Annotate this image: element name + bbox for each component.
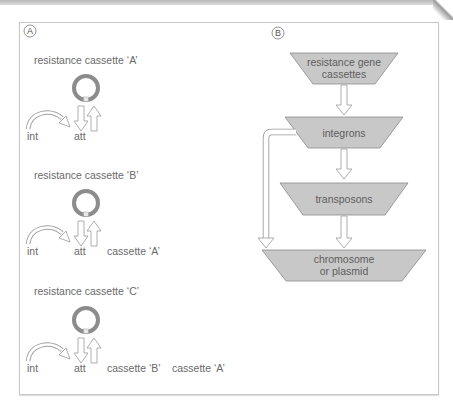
integrase-curved-arrow-icon	[28, 228, 70, 244]
step-title: resistance cassette ‘C’	[34, 285, 139, 297]
int-label: int	[27, 362, 38, 374]
svg-text:integrons: integrons	[322, 127, 365, 139]
att-label: att	[74, 245, 86, 257]
integrase-curved-arrow-icon	[28, 113, 70, 129]
panel-b-badge-label: B	[275, 28, 281, 38]
step-2: resistance cassette ‘B’ int att cassette…	[25, 169, 222, 258]
figure-canvas: A resistance cassette ‘A’ int att	[0, 0, 453, 410]
flow-arrow-down-icon	[336, 149, 352, 179]
int-label: int	[27, 130, 38, 142]
int-label: int	[27, 245, 38, 257]
flow-arrow-down-icon	[336, 85, 352, 115]
panel-a-badge: A	[24, 25, 36, 37]
panel-a-badge-label: A	[27, 26, 33, 36]
flow-arrow-down-icon	[336, 216, 352, 248]
node-chromosome-or-plasmid: chromosome or plasmid	[262, 250, 426, 281]
down-arrow-icon	[74, 338, 88, 363]
att-label: att	[74, 130, 86, 142]
integrase-curved-arrow-icon	[28, 345, 70, 361]
cassette-label: cassette ‘B’	[107, 362, 161, 374]
up-arrow-icon	[87, 106, 101, 131]
cassette-label: cassette ‘A’	[107, 245, 160, 257]
cassette-ring-icon	[74, 76, 98, 102]
cassette-ring-icon	[74, 191, 98, 217]
step-1: resistance cassette ‘A’ int att	[25, 54, 222, 143]
svg-text:or plasmid: or plasmid	[320, 265, 369, 277]
node-transposons: transposons	[280, 183, 408, 215]
svg-text:cassettes: cassettes	[322, 68, 366, 80]
step-title: resistance cassette ‘A’	[34, 54, 138, 66]
att-label: att	[74, 362, 86, 374]
down-arrow-icon	[74, 221, 88, 246]
svg-text:transposons: transposons	[315, 193, 372, 205]
down-arrow-icon	[74, 106, 88, 131]
step-title: resistance cassette ‘B’	[34, 169, 138, 181]
up-arrow-icon	[87, 221, 101, 246]
node-resistance-gene-cassettes: resistance gene cassettes	[290, 53, 398, 84]
up-arrow-icon	[87, 338, 101, 363]
svg-text:resistance gene: resistance gene	[307, 56, 381, 68]
panel-a: A resistance cassette ‘A’ int att	[24, 25, 225, 375]
panel-b-badge: B	[272, 27, 284, 39]
step-3: resistance cassette ‘C’ int att cassette…	[25, 285, 225, 375]
panel-b: B resistance gene cassettes integrons	[258, 27, 426, 281]
node-integrons: integrons	[285, 117, 403, 148]
cassette-label: cassette ‘A’	[172, 362, 225, 374]
cassette-ring-icon	[74, 308, 98, 334]
svg-text:chromosome: chromosome	[314, 253, 375, 265]
